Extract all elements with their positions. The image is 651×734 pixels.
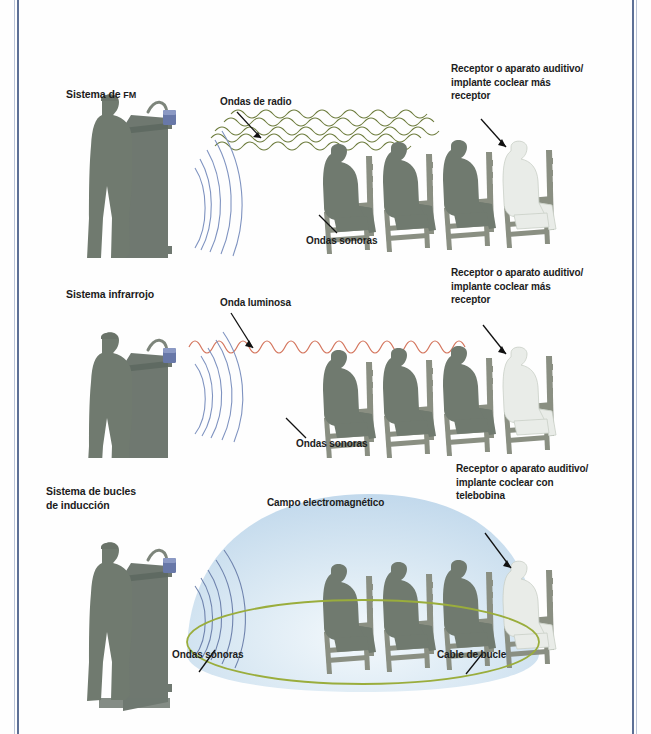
figure-canvas: Sistema de FM Ondas de radio Ondas sonor…: [19, 0, 632, 734]
presenter-at-podium: [87, 94, 176, 258]
presenter-at-podium: [87, 332, 176, 458]
loop-cable-label: Cable de bucle: [437, 648, 506, 662]
sound-waves-label-infrared: Ondas sonoras: [296, 437, 368, 451]
page-border-hairline-left: [14, 0, 15, 734]
system-label-fm: Sistema de FM: [66, 88, 136, 103]
radio-waves: [211, 110, 439, 150]
panel-induction-loop-system: Sistema de bucles de inducción Campo ele…: [19, 458, 632, 734]
presenter-at-podium: [87, 542, 176, 711]
panel-fm-system: Sistema de FM Ondas de radio Ondas sonor…: [19, 0, 632, 258]
page-border-hairline-right: [636, 0, 637, 734]
leader-sound-waves: [286, 418, 306, 438]
fm-illustration: [19, 0, 632, 258]
page-border-right: [632, 0, 634, 734]
sound-waves-label-fm: Ondas sonoras: [306, 234, 378, 248]
system-label-induction-loop: Sistema de bucles de inducción: [46, 485, 136, 512]
panel-infrared-system: Sistema infrarrojo Onda luminosa Ondas s…: [19, 258, 632, 458]
light-wave: [189, 341, 465, 353]
receiver-label-fm: Receptor o aparato auditivo/ implante co…: [451, 62, 583, 103]
light-wave-label: Onda luminosa: [220, 296, 291, 310]
sound-waves-label-loop: Ondas sonoras: [172, 648, 244, 662]
receiver-label-infrared: Receptor o aparato auditivo/ implante co…: [451, 266, 583, 307]
radio-waves-label: Ondas de radio: [220, 95, 291, 109]
receiver-label-loop: Receptor o aparato auditivo/ implante co…: [456, 462, 588, 503]
em-field-label: Campo electromagnético: [267, 496, 384, 510]
system-label-infrared: Sistema infrarrojo: [66, 288, 154, 302]
